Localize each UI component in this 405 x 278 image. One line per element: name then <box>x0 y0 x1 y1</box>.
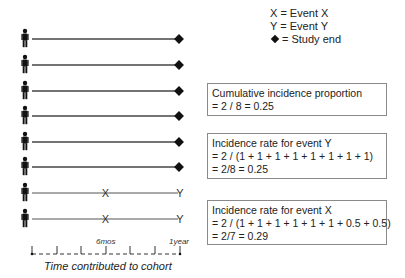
legend-study-end: = Study end <box>270 33 341 46</box>
legend: X = Event X Y = Event Y = Study end <box>270 7 341 46</box>
axis-6mos-label: 6mos <box>96 237 116 246</box>
study-end-diamond-icon <box>174 111 184 121</box>
box-title: Cumulative incidence proportion <box>212 87 382 100</box>
person-icon <box>21 157 28 175</box>
person-icon <box>21 29 28 47</box>
time-axis <box>31 246 182 255</box>
incidence-rate-y-box: Incidence rate for event Y = 2 / (1 + 1 … <box>207 133 387 179</box>
event-x-marker: X <box>102 187 110 199</box>
box-line: = 2 / (1 + 1 + 1 + 1 + 1 + 1 + 0.5 + 0.5… <box>212 217 382 230</box>
participant-row-6 <box>21 157 184 175</box>
event-x-marker: X <box>102 213 110 225</box>
box-line: = 2 / (1 + 1 + 1 + 1 + 1 + 1 + 1 + 1) <box>212 150 382 163</box>
participant-row-4 <box>21 106 184 124</box>
person-icon <box>21 55 28 73</box>
study-end-diamond-icon <box>174 137 184 147</box>
person-icon <box>21 209 28 227</box>
study-end-diamond-icon <box>174 34 184 44</box>
participant-row-5 <box>21 132 184 150</box>
study-end-diamond-icon <box>174 60 184 70</box>
person-icon <box>21 183 28 201</box>
box-line: = 2/7 = 0.29 <box>212 230 382 243</box>
box-line: = 2/8 = 0.25 <box>212 163 382 176</box>
event-y-marker: Y <box>176 187 184 199</box>
axis-1year-label: 1year <box>169 237 189 246</box>
axis-title: Time contributed to cohort <box>44 260 172 272</box>
cumulative-incidence-box: Cumulative incidence proportion = 2 / 8 … <box>207 83 387 116</box>
incidence-rate-x-box: Incidence rate for event X = 2 / (1 + 1 … <box>207 200 387 245</box>
person-icon <box>21 106 28 124</box>
diamond-icon <box>271 35 279 43</box>
legend-event-x: X = Event X <box>270 7 341 20</box>
participant-row-2 <box>21 55 184 73</box>
box-title: Incidence rate for event X <box>212 204 382 217</box>
participant-row-7: X Y <box>21 183 184 201</box>
box-title: Incidence rate for event Y <box>212 137 382 150</box>
person-icon <box>21 81 28 99</box>
box-line: = 2 / 8 = 0.25 <box>212 100 382 113</box>
participant-row-8: X Y <box>21 209 184 227</box>
participant-row-1 <box>21 29 184 47</box>
participant-row-3 <box>21 81 184 99</box>
person-icon <box>21 132 28 150</box>
study-end-diamond-icon <box>174 86 184 96</box>
event-y-marker: Y <box>176 213 184 225</box>
study-end-diamond-icon <box>174 162 184 172</box>
legend-event-y: Y = Event Y <box>270 20 341 33</box>
